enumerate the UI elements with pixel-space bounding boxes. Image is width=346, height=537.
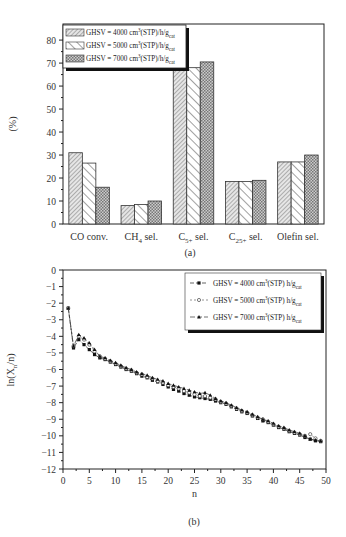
y-tick-label: 0: [51, 220, 56, 230]
triangle-marker: [82, 336, 86, 339]
bar: [187, 68, 201, 224]
y-tick-label: −1: [46, 282, 56, 292]
x-tick-label: 0: [61, 476, 66, 486]
y-tick-label: 40: [47, 128, 57, 138]
y-tick-label: 60: [47, 82, 57, 92]
x-tick-label: CH4 sel.: [125, 231, 159, 245]
legend: GHSV = 4000 cm3(STP) h/gcatGHSV = 5000 c…: [185, 273, 324, 333]
x-tick-label: 15: [137, 476, 147, 486]
y-tick-label: 80: [47, 36, 57, 46]
triangle-marker: [193, 390, 197, 393]
legend-label: GHSV = 5000 cm3(STP)/h/gcat: [86, 41, 175, 52]
x-tick-label: 40: [269, 476, 279, 486]
y-tick-label: −11: [41, 448, 56, 458]
circle-marker: [309, 433, 312, 436]
y-tick-label: −5: [46, 348, 56, 358]
y-tick-label: 10: [47, 197, 57, 207]
x-tick-label: 50: [321, 476, 331, 486]
y-tick-label: −4: [46, 332, 56, 342]
x-axis-label: n: [192, 488, 197, 499]
bar: [291, 162, 305, 224]
y-axis-label: ln(Xn/n): [5, 354, 19, 387]
y-tick-label: −6: [46, 365, 56, 375]
square-marker: [82, 343, 85, 346]
bar: [305, 155, 319, 224]
panel-caption-b: (b): [188, 516, 200, 528]
bar: [82, 163, 96, 224]
y-tick-label: −7: [46, 382, 56, 392]
y-tick-label: −9: [46, 415, 56, 425]
x-tick-label: C5+ sel.: [178, 231, 208, 245]
legend-label: GHSV = 7000 cm3(STP)/h/gcat: [86, 54, 175, 65]
legend-swatch: [66, 42, 84, 49]
y-tick-label: −8: [46, 398, 56, 408]
bar-chart-panel-a: 01020304050607080(%)CO conv.CH4 sel.C5+ …: [7, 24, 324, 259]
figure: 01020304050607080(%)CO conv.CH4 sel.C5+ …: [0, 0, 346, 537]
y-tick-label: −12: [41, 465, 56, 475]
bar: [278, 162, 292, 224]
bar: [148, 201, 162, 224]
x-tick-label: C25+ sel.: [229, 231, 263, 245]
triangle-marker: [87, 341, 91, 344]
square-marker: [197, 281, 200, 284]
square-marker: [77, 338, 80, 341]
legend-label: GHSV = 4000 cm3(STP) h/gcat: [213, 279, 302, 290]
bar: [173, 65, 187, 224]
bar: [135, 204, 149, 224]
legend-label: GHSV = 4000 cm3(STP)/h/gcat: [86, 28, 175, 39]
legend-swatch: [66, 55, 84, 62]
legend-label: GHSV = 7000 cm3(STP) h/gcat: [213, 313, 302, 324]
legend: GHSV = 4000 cm3(STP)/h/gcatGHSV = 5000 c…: [63, 25, 189, 71]
circle-marker: [203, 394, 206, 397]
y-tick-label: 30: [47, 151, 57, 161]
bar: [200, 62, 214, 224]
line-chart-panel-b: 0−1−2−3−4−5−6−7−8−9−10−11−12051015202530…: [5, 266, 331, 529]
x-tick-label: 10: [111, 476, 121, 486]
bar: [239, 181, 253, 224]
y-tick-label: 20: [47, 174, 57, 184]
y-tick-label: 50: [47, 105, 57, 115]
bar: [252, 180, 266, 224]
y-tick-label: 70: [47, 59, 57, 69]
y-tick-label: −2: [46, 299, 56, 309]
x-tick-label: 45: [295, 476, 305, 486]
x-tick-label: 20: [163, 476, 173, 486]
y-tick-label: 0: [51, 266, 56, 276]
legend-swatch: [66, 29, 84, 36]
square-marker: [93, 353, 96, 356]
triangle-marker: [77, 333, 81, 336]
y-tick-label: −10: [41, 431, 56, 441]
panel-caption-a: (a): [184, 247, 195, 259]
bar: [69, 153, 83, 224]
legend-label: GHSV = 5000 cm3(STP) h/gcat: [213, 296, 302, 307]
x-tick-label: 35: [242, 476, 252, 486]
x-tick-label: CO conv.: [70, 231, 108, 242]
bar: [96, 187, 110, 224]
triangle-marker: [172, 383, 176, 386]
bar: [225, 181, 239, 224]
x-tick-label: 25: [190, 476, 200, 486]
y-tick-label: −3: [46, 315, 56, 325]
x-tick-label: 30: [216, 476, 226, 486]
circle-marker: [197, 298, 200, 301]
y-axis-label: (%): [7, 117, 19, 132]
triangle-marker: [203, 391, 207, 394]
bar: [121, 206, 135, 224]
triangle-marker: [145, 373, 149, 376]
x-tick-label: 5: [87, 476, 92, 486]
square-marker: [88, 348, 91, 351]
x-tick-label: Olefin sel.: [277, 231, 319, 242]
